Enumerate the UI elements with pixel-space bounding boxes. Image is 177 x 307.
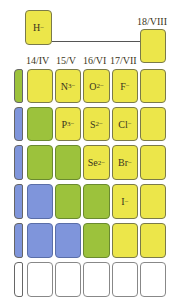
cell-p4-g18 xyxy=(140,145,166,180)
ion-charge: − xyxy=(126,82,130,90)
cell-Se: Se2− xyxy=(83,145,110,180)
cell-p6-g17 xyxy=(112,223,138,258)
group-header-15: 15/V xyxy=(56,55,76,66)
cell-p6-g16 xyxy=(83,223,110,258)
cell-p3-g18 xyxy=(140,107,166,141)
ion-symbol: Br xyxy=(118,157,128,168)
ion-symbol: O xyxy=(89,81,96,92)
ion-symbol: Se xyxy=(88,157,98,168)
ion-symbol: H xyxy=(33,22,40,33)
group-header-16: 16/VI xyxy=(83,55,106,66)
cell-p5-g15 xyxy=(55,184,81,219)
ion-charge: − xyxy=(125,198,129,206)
cell-F: F− xyxy=(112,69,138,103)
period-4-sliver xyxy=(14,145,23,180)
period-6-sliver xyxy=(14,223,23,258)
cell-p5-g18 xyxy=(140,184,166,219)
ion-charge: − xyxy=(128,159,132,167)
period-5-sliver xyxy=(14,184,23,219)
ion-symbol: Cl xyxy=(118,119,127,130)
cell-p5-g16 xyxy=(83,184,110,219)
cell-p3-g14 xyxy=(27,107,53,141)
cell-p7-g16 xyxy=(83,262,110,297)
group-18-top-cell xyxy=(140,29,166,63)
cell-p6-g18 xyxy=(140,223,166,258)
cell-p6-g15 xyxy=(55,223,81,258)
cell-O: O2− xyxy=(83,69,110,103)
group-18-label: 18/VIII xyxy=(137,16,167,27)
ion-charge: 2− xyxy=(96,82,103,90)
cell-Cl: Cl− xyxy=(112,107,138,141)
ion-charge: − xyxy=(40,24,44,32)
ion-charge: 2− xyxy=(98,159,105,167)
ion-charge: 2− xyxy=(96,120,103,128)
period-2-sliver xyxy=(14,69,23,103)
cell-p7-g18 xyxy=(140,262,166,297)
ion-symbol: N xyxy=(61,81,68,92)
cell-I: I− xyxy=(112,184,138,219)
cell-p7-g17 xyxy=(112,262,138,297)
cell-p2-g14 xyxy=(27,69,53,103)
cell-p4-g14 xyxy=(27,145,53,180)
ion-charge: 3− xyxy=(67,120,74,128)
cell-S: S2− xyxy=(83,107,110,141)
cell-Br: Br− xyxy=(112,145,138,180)
cell-p4-g15 xyxy=(55,145,81,180)
cell-p7-g15 xyxy=(55,262,81,297)
ion-charge: − xyxy=(128,120,132,128)
cell-p2-g18 xyxy=(140,69,166,103)
cell-p7-g14 xyxy=(27,262,53,297)
cell-p5-g14 xyxy=(27,184,53,219)
cell-N: N3− xyxy=(55,69,81,103)
ion-charge: 3− xyxy=(68,82,75,90)
hydride-cell: H− xyxy=(25,10,52,45)
period-7-sliver xyxy=(14,262,23,297)
cell-P: P3− xyxy=(55,107,81,141)
cell-p6-g14 xyxy=(27,223,53,258)
period-3-sliver xyxy=(14,107,23,141)
group-header-14: 14/IV xyxy=(26,55,49,66)
group-header-17: 17/VII xyxy=(110,55,137,66)
connector-line xyxy=(52,41,140,42)
